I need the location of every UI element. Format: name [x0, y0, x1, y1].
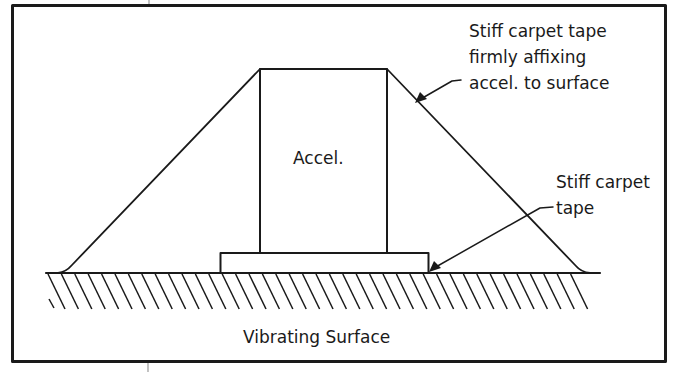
hatch-line [396, 274, 413, 309]
hatch-line [504, 274, 521, 309]
callout-arrow-base-tape [434, 207, 553, 268]
hatch-line [463, 274, 480, 309]
arrowhead-icon [429, 261, 441, 272]
base-tape-label-line-2: tape [556, 198, 594, 218]
covering-tape-label-line-3: accel. to surface [469, 73, 609, 93]
hatch-line [222, 274, 239, 309]
hatch-line [383, 274, 400, 309]
hatch-line [490, 274, 507, 309]
hatch-line [102, 274, 119, 309]
hatch-line [276, 274, 293, 309]
hatch-line [544, 274, 561, 309]
hatch-line [155, 274, 172, 309]
hatch-line [571, 274, 588, 309]
covering-tape-label-line-1: Stiff carpet tape [469, 21, 607, 41]
hatch-line [329, 274, 346, 309]
hatch-line [169, 274, 186, 309]
hatch-line [75, 274, 92, 309]
hatch-line [182, 274, 199, 309]
hatch-line [343, 274, 360, 309]
vibrating-surface-label: Vibrating Surface [243, 327, 390, 347]
hatch-line [142, 274, 159, 309]
accelerometer-label: Accel. [293, 148, 344, 168]
hatch-line [356, 274, 373, 309]
hatch-line [450, 274, 467, 309]
callout-arrow-covering-tape [419, 80, 461, 100]
hatch-line [128, 274, 145, 309]
hatch-line [209, 274, 226, 309]
hatch-line [477, 274, 494, 309]
hatch-line [530, 274, 547, 309]
covering-tape-label-line-2: firmly affixing [469, 47, 586, 67]
hatch-line [410, 274, 427, 309]
hatch-line [517, 274, 534, 309]
hatch-line [249, 274, 266, 309]
hatch-line [557, 274, 574, 309]
hatch-line [370, 274, 387, 309]
hatch-line [236, 274, 253, 309]
hatch-line [289, 274, 306, 309]
base-tape [221, 253, 429, 273]
arrowhead-icon [415, 92, 427, 103]
hatch-line [437, 274, 454, 309]
hatch-line [48, 274, 65, 309]
covering-tape-left-edge [58, 69, 260, 273]
accelerometer-mounting-diagram: Accel. Stiff carpet tape firmly affixing… [0, 0, 688, 386]
hatch-line [195, 274, 212, 309]
hatch-line [88, 274, 105, 309]
surface-hatching [48, 274, 588, 309]
hatch-line [423, 274, 440, 309]
hatch-line [49, 299, 54, 308]
base-tape-label-line-1: Stiff carpet [556, 172, 650, 192]
hatch-line [303, 274, 320, 309]
hatch-line [115, 274, 132, 309]
hatch-line [262, 274, 279, 309]
hatch-line [61, 274, 78, 309]
hatch-line [316, 274, 333, 309]
